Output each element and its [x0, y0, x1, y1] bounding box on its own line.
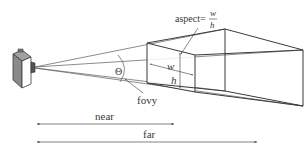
near-label: near — [95, 110, 114, 122]
theta-label: Θ — [115, 66, 122, 77]
height-label: h — [171, 74, 177, 86]
aspect-label: aspect= — [175, 13, 206, 24]
aspect-numerator: w — [210, 8, 216, 18]
far-clipping-plane — [225, 29, 303, 106]
frustum-diagram: w h Θ fovy aspect= w h near far — [0, 0, 307, 156]
aspect-denominator: h — [210, 20, 215, 30]
camera-icon — [13, 49, 35, 88]
fovy-leader-arrow — [125, 79, 143, 93]
fovy-label: fovy — [137, 94, 158, 106]
far-label: far — [143, 128, 156, 140]
width-label: w — [167, 60, 175, 72]
aspect-leader-arrow — [181, 28, 198, 54]
